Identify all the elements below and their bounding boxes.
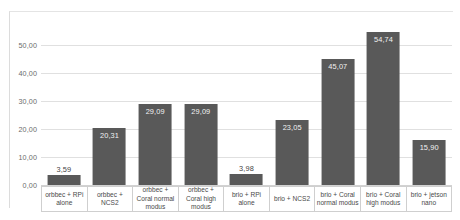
y-tick-label: 50,00 — [19, 41, 38, 50]
bar-value-label: 45,07 — [328, 62, 347, 71]
bar-group: 45,07 — [315, 0, 361, 186]
bar-value-label: 20,31 — [100, 131, 119, 140]
bar-value-label: 3,59 — [56, 165, 71, 174]
bar-value-label: 23,05 — [283, 123, 302, 132]
y-tick-label: 0,00 — [23, 181, 37, 190]
bar-group: 15,90 — [406, 0, 452, 186]
bar[interactable] — [230, 174, 263, 185]
bar-group: 29,09 — [178, 0, 224, 186]
bar[interactable] — [139, 104, 172, 185]
bar-value-label: 29,09 — [191, 107, 210, 116]
bar-value-label: 15,90 — [420, 143, 439, 152]
x-axis-category-label: orbbec + NCS2 — [88, 187, 134, 211]
bar-group: 3,98 — [224, 0, 270, 186]
x-axis-category-labels: orbbec + RPi aloneorbbec + NCS2orbbec + … — [41, 186, 452, 212]
bar-value-label: 54,74 — [374, 35, 393, 44]
x-axis-category-label: orbbec + Coral high modus — [179, 187, 225, 211]
bar-group: 20,31 — [87, 0, 133, 186]
y-tick-label: 40,00 — [19, 69, 38, 78]
bar-value-label: 3,98 — [239, 164, 254, 173]
y-tick-label: 10,00 — [19, 153, 38, 162]
x-axis-category-label: orbbec + Coral normal modus — [133, 187, 179, 211]
x-axis-category-label: orbbec + RPi alone — [41, 187, 88, 211]
bar[interactable] — [321, 59, 354, 185]
x-axis-category-label: brio + Coral normal modus — [315, 187, 361, 211]
x-axis-category-label: brio + RPi alone — [224, 187, 270, 211]
bar-series: 3,5920,3129,0929,093,9823,0545,0754,7415… — [41, 0, 452, 186]
bar-group: 54,74 — [361, 0, 407, 186]
x-axis-category-label: brio + NCS2 — [270, 187, 316, 211]
y-tick-label: 20,00 — [19, 125, 38, 134]
y-axis-tick-labels: 50,00 40,00 30,00 20,00 10,00 0,00 — [0, 0, 41, 220]
bar-value-label: 29,09 — [146, 107, 165, 116]
bar[interactable] — [47, 175, 80, 185]
bar[interactable] — [184, 104, 217, 185]
bar-group: 29,09 — [132, 0, 178, 186]
bar-group: 3,59 — [41, 0, 87, 186]
x-axis-category-label: brio + jetson nano — [407, 187, 453, 211]
bar-group: 23,05 — [269, 0, 315, 186]
x-axis-category-label: brio + Coral high modus — [361, 187, 407, 211]
y-tick-label: 30,00 — [19, 97, 38, 106]
bar[interactable] — [367, 32, 400, 185]
bar-chart: 50,00 40,00 30,00 20,00 10,00 0,00 3,592… — [0, 0, 460, 220]
